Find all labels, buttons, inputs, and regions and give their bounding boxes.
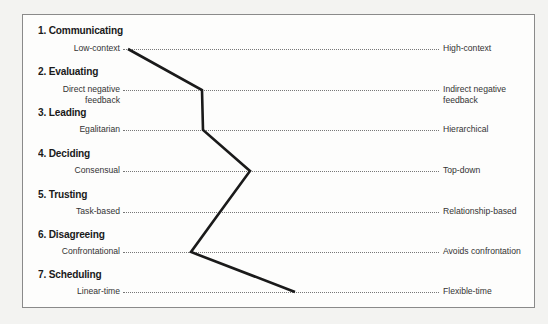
culture-profile-line	[0, 0, 548, 324]
